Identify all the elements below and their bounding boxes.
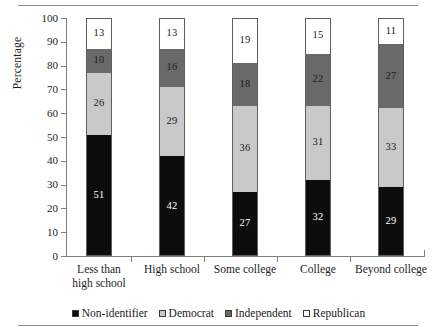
y-tick: [61, 66, 67, 67]
y-tick-label: 80: [0, 60, 58, 71]
x-tick: [277, 256, 278, 262]
legend-label: Independent: [235, 307, 292, 319]
legend-swatch-icon: [159, 310, 166, 317]
legend-item[interactable]: Democrat: [159, 307, 214, 319]
bar-segment-value: 19: [232, 35, 258, 46]
y-tick-label: 90: [0, 36, 58, 47]
chart-legend: Non-identifierDemocratIndependentRepubli…: [0, 307, 437, 319]
x-category-label-line: Beyond college: [343, 263, 437, 277]
bar-segment-value: 29: [159, 116, 185, 127]
y-tick: [61, 161, 67, 162]
y-tick-label-text: 50: [32, 132, 58, 143]
y-tick-label: 100: [0, 13, 58, 24]
x-tick: [350, 256, 351, 262]
x-category-label: Beyond college: [343, 263, 437, 277]
y-tick-label: 50: [0, 132, 58, 143]
legend-label: Non-identifier: [82, 307, 148, 319]
y-tick-label-text: 100: [32, 13, 58, 24]
y-tick: [61, 18, 67, 19]
bar-segment-value: 32: [305, 212, 331, 223]
bar-segment-value: 16: [159, 62, 185, 73]
y-tick-label-text: 90: [32, 36, 58, 47]
bar-segment-value: 13: [86, 28, 112, 39]
legend-item[interactable]: Non-identifier: [72, 307, 148, 319]
bar-segment-value: 51: [86, 190, 112, 201]
stacked-bar-chart: Percentage 0102030405060708090100 512610…: [0, 0, 437, 332]
bar-segment-value: 36: [232, 143, 258, 154]
bar-segment-value: 10: [86, 55, 112, 66]
bar-segment-value: 29: [378, 216, 404, 227]
x-tick: [204, 256, 205, 262]
y-tick-label-text: 70: [32, 84, 58, 95]
legend-item[interactable]: Independent: [225, 307, 292, 319]
y-tick: [61, 113, 67, 114]
legend-swatch-icon: [303, 310, 310, 317]
x-axis-end-tick: [424, 250, 425, 257]
y-tick-label: 70: [0, 84, 58, 95]
legend-swatch-icon: [72, 310, 79, 317]
bar-segment-value: 42: [159, 201, 185, 212]
x-category-label-line: high school: [51, 277, 147, 291]
bar-segment-value: 27: [378, 71, 404, 82]
y-tick: [61, 232, 67, 233]
bar-segment-value: 27: [232, 218, 258, 229]
y-tick-label-text: 20: [32, 203, 58, 214]
y-tick-label: 20: [0, 203, 58, 214]
bar-segment-value: 15: [305, 30, 331, 41]
y-tick-label-text: 0: [32, 251, 58, 262]
y-tick: [61, 137, 67, 138]
x-tick: [131, 256, 132, 262]
bar-stack[interactable]: 42291613: [159, 18, 185, 256]
y-tick-label-text: 10: [32, 227, 58, 238]
x-axis-line: [66, 256, 424, 257]
bar-stack[interactable]: 32312215: [305, 18, 331, 256]
legend-label: Democrat: [169, 307, 214, 319]
y-tick-label-text: 60: [32, 108, 58, 119]
legend-label: Republican: [313, 307, 365, 319]
legend-swatch-icon: [225, 310, 232, 317]
bar-segment-value: 33: [378, 142, 404, 153]
bar-segment-value: 13: [159, 28, 185, 39]
y-tick-label-text: 80: [32, 60, 58, 71]
y-tick-label: 40: [0, 155, 58, 166]
bar-stack[interactable]: 51261013: [86, 18, 112, 256]
y-tick-label-text: 40: [32, 155, 58, 166]
y-tick-label-text: 30: [32, 179, 58, 190]
y-tick: [61, 42, 67, 43]
y-tick-label: 30: [0, 179, 58, 190]
bar-segment-value: 18: [232, 79, 258, 90]
bar-segment-value: 26: [86, 98, 112, 109]
bar-stack[interactable]: 27361819: [232, 18, 258, 256]
y-tick-label: 10: [0, 227, 58, 238]
bar-segment-value: 22: [305, 74, 331, 85]
y-tick-label: 0: [0, 251, 58, 262]
legend-item[interactable]: Republican: [303, 307, 365, 319]
bar-segment-value: 11: [378, 26, 404, 37]
bar-stack[interactable]: 29332711: [378, 18, 404, 256]
y-tick-label: 60: [0, 108, 58, 119]
bar-segment-value: 31: [305, 137, 331, 148]
y-tick: [61, 208, 67, 209]
y-tick: [61, 256, 67, 257]
y-tick: [61, 89, 67, 90]
y-tick: [61, 185, 67, 186]
